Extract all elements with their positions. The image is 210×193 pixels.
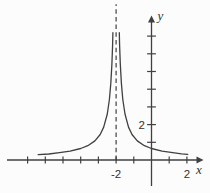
curve-branch [38, 33, 113, 155]
tick-labels-layer: -222 [111, 119, 190, 180]
x-tick-label: -2 [111, 168, 121, 180]
function-graph-figure: -222 y x [0, 0, 210, 193]
curve-branch [119, 33, 188, 155]
x-tick-label: 2 [184, 168, 190, 180]
axes-layer [7, 16, 204, 187]
y-axis-label: y [156, 8, 164, 23]
y-axis-arrow-icon [148, 16, 155, 23]
plot-canvas: -222 y x [0, 0, 210, 193]
curve-layer [38, 33, 188, 155]
x-axis-label: x [195, 162, 202, 177]
ticks-layer [28, 36, 187, 164]
y-tick-label: 2 [139, 119, 145, 131]
